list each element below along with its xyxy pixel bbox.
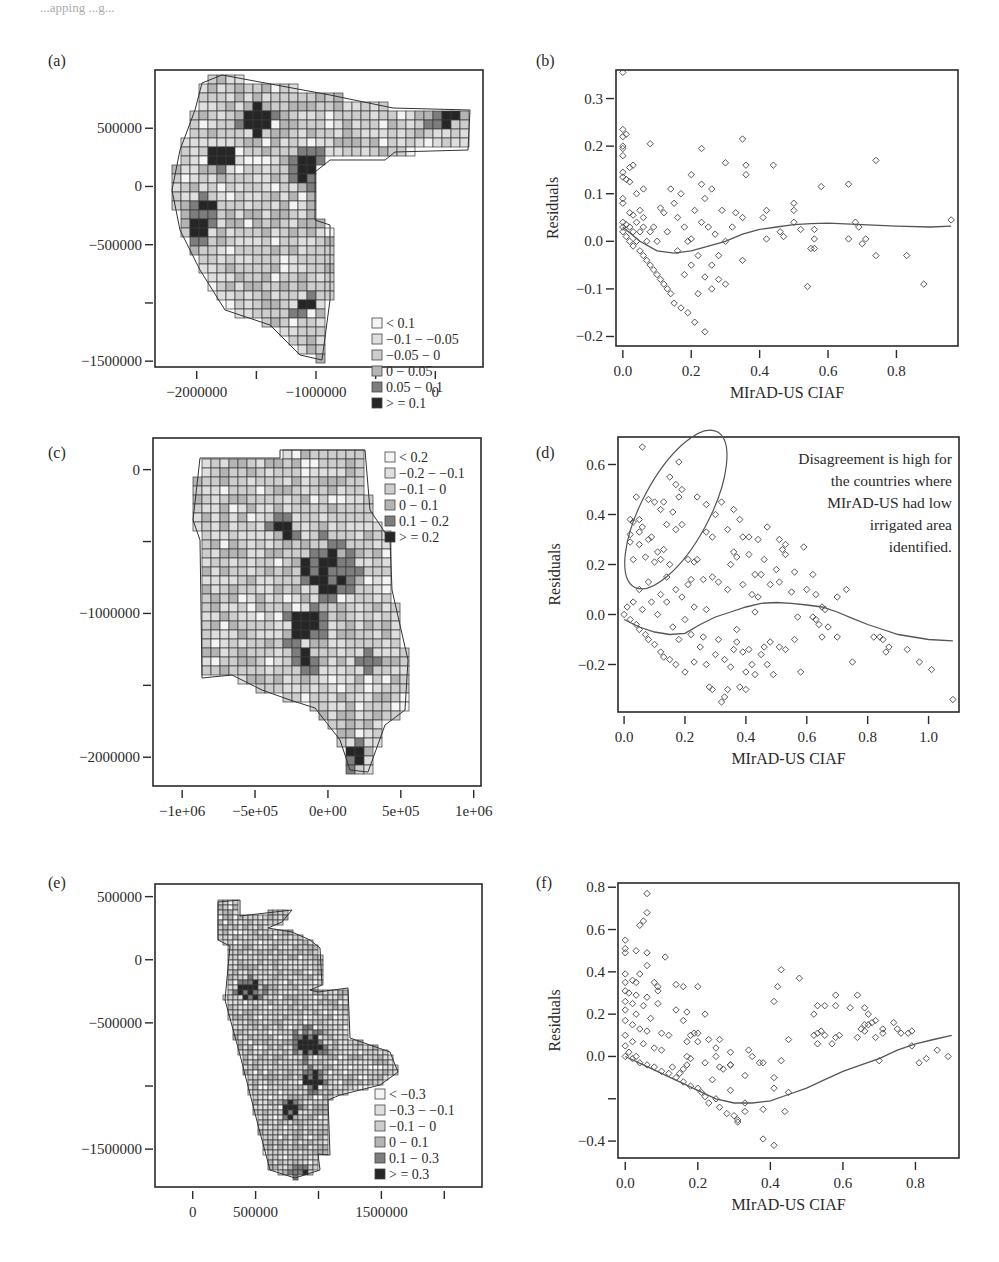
county — [289, 300, 298, 309]
legend-swatch — [385, 468, 395, 478]
county — [307, 309, 316, 318]
county — [256, 558, 265, 567]
county — [348, 1070, 353, 1075]
county — [263, 1045, 268, 1050]
county — [211, 639, 220, 648]
county — [288, 990, 293, 995]
legend-entry: −0.1 − 0 — [399, 482, 446, 497]
county — [303, 960, 308, 965]
county — [238, 540, 247, 549]
data-point — [715, 636, 721, 642]
county — [308, 1040, 313, 1045]
county — [391, 684, 400, 693]
county — [289, 282, 298, 291]
county — [243, 1020, 248, 1025]
data-point — [829, 1041, 835, 1047]
county — [243, 1045, 248, 1050]
county — [368, 1070, 373, 1075]
data-point — [713, 1053, 719, 1059]
y-axis-label: Residuals — [546, 543, 563, 605]
county — [288, 1090, 293, 1095]
data-point — [847, 1005, 853, 1011]
data-point — [832, 1002, 838, 1008]
map-a: −2000000−100000005000000−500000−1500000<… — [0, 0, 500, 420]
data-point — [921, 281, 927, 287]
county — [303, 1115, 308, 1120]
county — [406, 129, 415, 138]
county — [451, 111, 460, 120]
county — [292, 657, 301, 666]
county — [442, 111, 451, 120]
county — [373, 567, 382, 576]
county — [258, 1015, 263, 1020]
data-point — [644, 950, 650, 956]
county — [333, 1075, 338, 1080]
county — [353, 1060, 358, 1065]
county — [298, 1160, 303, 1165]
x-tick-label: 1.0 — [919, 729, 938, 745]
county — [248, 985, 253, 990]
county — [258, 1045, 263, 1050]
data-point — [622, 937, 628, 943]
county — [190, 120, 199, 129]
county — [318, 1035, 323, 1040]
county — [273, 1120, 278, 1125]
county — [303, 1125, 308, 1130]
county — [319, 576, 328, 585]
annotation-line: MIrAD-US had low — [827, 494, 953, 511]
county — [278, 1010, 283, 1015]
county — [346, 702, 355, 711]
county — [298, 995, 303, 1000]
county — [338, 1035, 343, 1040]
county — [278, 1125, 283, 1130]
county — [333, 1020, 338, 1025]
data-point — [814, 1002, 820, 1008]
county — [308, 1120, 313, 1125]
county — [301, 468, 310, 477]
county — [283, 603, 292, 612]
data-point — [778, 967, 784, 973]
county — [346, 459, 355, 468]
data-point — [695, 983, 701, 989]
county — [247, 504, 256, 513]
data-point — [691, 604, 697, 610]
county — [318, 975, 323, 980]
county — [181, 201, 190, 210]
county — [292, 522, 301, 531]
county — [288, 945, 293, 950]
county — [293, 1095, 298, 1100]
county — [235, 111, 244, 120]
data-point — [644, 909, 650, 915]
county — [337, 729, 346, 738]
county — [283, 576, 292, 585]
county — [373, 684, 382, 693]
county — [199, 174, 208, 183]
county — [313, 1120, 318, 1125]
county — [316, 327, 325, 336]
county — [280, 228, 289, 237]
county — [406, 111, 415, 120]
county — [382, 693, 391, 702]
scatter-f: 0.00.20.40.60.8−0.40.00.20.40.60.8MIrAD-… — [500, 840, 999, 1262]
county — [355, 738, 364, 747]
county — [319, 450, 328, 459]
county — [263, 980, 268, 985]
data-point — [705, 1100, 711, 1106]
county — [258, 960, 263, 965]
county — [288, 980, 293, 985]
county — [307, 102, 316, 111]
county — [274, 639, 283, 648]
county — [382, 711, 391, 720]
data-point — [865, 1011, 871, 1017]
county — [364, 603, 373, 612]
county — [298, 264, 307, 273]
data-point — [716, 1036, 722, 1042]
county — [253, 1020, 258, 1025]
data-point — [633, 219, 639, 225]
county — [391, 621, 400, 630]
county-polygons — [218, 900, 398, 1180]
county — [328, 567, 337, 576]
data-point — [776, 536, 782, 542]
scatter-b: 0.00.20.40.60.8−0.2−0.10.00.10.20.3MIrAD… — [500, 0, 999, 420]
county — [391, 675, 400, 684]
